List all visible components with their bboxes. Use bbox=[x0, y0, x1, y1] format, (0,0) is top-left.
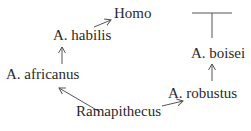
arrow-habilis-to-homo bbox=[94, 20, 111, 27]
node-homo: Homo bbox=[114, 6, 152, 21]
node-a-habilis: A. habilis bbox=[53, 28, 111, 43]
arrow-ramapithecus-to-robustus bbox=[162, 101, 183, 106]
node-a-africanus: A. africanus bbox=[6, 67, 79, 82]
node-a-robustus: A. robustus bbox=[168, 86, 237, 101]
extinction-bar bbox=[192, 13, 232, 38]
node-ramapithecus: Ramapithecus bbox=[76, 104, 161, 119]
node-a-boisei: A. boisei bbox=[191, 46, 245, 61]
